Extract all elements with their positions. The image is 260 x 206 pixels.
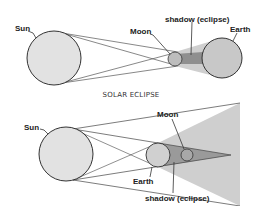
moon-label: Moon [157,110,178,119]
solar-eclipse-diagram: Sun Moon shadow (eclipse) Earth [15,15,251,85]
sun-circle [27,31,81,85]
sun-label: Sun [15,24,30,33]
moon-circle [181,149,193,161]
earth-circle [202,38,242,78]
earth-label: Earth [133,177,154,186]
earth-circle [146,143,170,167]
lunar-eclipse-diagram: Sun Moon Earth shadow (eclipse) [24,103,240,206]
eclipse-diagram: Sun Moon shadow (eclipse) Earth SOLAR EC… [0,0,260,206]
sun-circle [39,127,93,181]
caption-solar-eclipse: SOLAR ECLIPSE [103,91,160,99]
earth-label: Earth [230,25,251,34]
shadow-label: shadow (eclipse) [145,194,210,203]
moon-label: Moon [130,27,151,36]
moon-circle [168,52,182,66]
sun-label: Sun [24,123,39,132]
shadow-label: shadow (eclipse) [165,15,230,24]
